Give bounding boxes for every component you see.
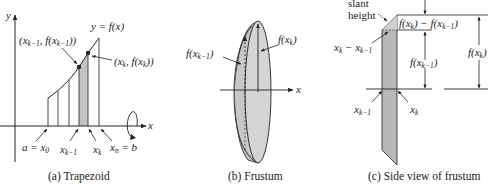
arrow-xk [89, 129, 96, 141]
arrow-xk-c [398, 91, 408, 102]
arrow-a [36, 129, 47, 141]
point-xk [86, 51, 90, 55]
arrow-left-point [62, 48, 77, 64]
arrow-xkm1-c [372, 91, 382, 102]
arrow-right-point [92, 56, 112, 60]
panel-b-frustum: x f(xk−1) f(xk) (b) Frustum [186, 21, 301, 183]
rotation-arrowhead-icon [130, 134, 136, 140]
label-width: xk − xk−1 [333, 41, 372, 55]
point-xkm1 [77, 65, 81, 69]
rotation-arrow-icon [127, 112, 137, 137]
y-axis-label: y [5, 9, 11, 21]
point-label-right: (xk, f(xk)) [114, 55, 154, 69]
arrow-b [101, 129, 112, 141]
panel-a-trapezoid: y x y = f(x) (xk−1, f(xk−1)) (xk, f(xk))… [0, 9, 154, 183]
shaded-trapezoid [79, 53, 88, 126]
slant-face [382, 15, 397, 30]
arrow-xkm1 [70, 129, 78, 141]
caption-b: (b) Frustum [228, 170, 283, 183]
panel-c-side-view: slant height f(xk) − f(xk−1) xk − xk−1 f… [333, 0, 488, 183]
label-diff: f(xk) − f(xk−1) [399, 17, 458, 31]
point-label-left: (xk−1, f(xk−1)) [19, 34, 77, 48]
label-xkm1: xk−1 [59, 143, 77, 157]
figure-canvas: y x y = f(x) (xk−1, f(xk−1)) (xk, f(xk))… [0, 0, 489, 184]
label-fxk: f(xk) [468, 46, 487, 60]
label-a-x0: a = x0 [22, 141, 49, 155]
label-fxkm1: f(xk−1) [410, 56, 438, 70]
curve-label: y = f(x) [90, 20, 124, 33]
arrow-slant [378, 14, 387, 21]
curve-f [48, 38, 99, 98]
label-xk: xk [92, 143, 102, 157]
x-axis-label-b: x [295, 83, 301, 95]
label-f-xk: f(xk) [278, 33, 297, 47]
frustum-side-strip [382, 15, 397, 165]
label-b-xn: xn = b [109, 141, 138, 155]
label-slant: slant [348, 0, 369, 9]
caption-c: (c) Side view of frustum [368, 170, 480, 183]
label-f-xkm1: f(xk−1) [186, 47, 214, 61]
label-height: height [348, 9, 376, 21]
x-axis-label: x [147, 119, 153, 131]
caption-a: (a) Trapezoid [48, 170, 110, 183]
label-xkm1-c: xk−1 [353, 103, 371, 117]
label-xk-c: xk [409, 103, 419, 117]
